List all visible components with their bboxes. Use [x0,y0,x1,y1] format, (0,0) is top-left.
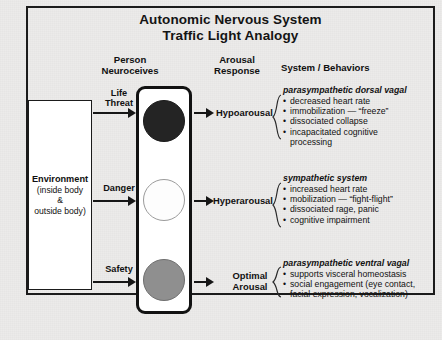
system-list-sympathetic: increased heart rate mobilization — “fig… [283,184,435,225]
environment-sub-2: & [32,195,88,206]
list-item: increased heart rate [283,184,435,194]
input-arrow-safety-line [93,281,129,283]
column-header-arousal: Arousal Response [196,54,278,76]
environment-text: Environment (inside body & outside body) [32,174,88,216]
page-title: Autonomic Nervous System Traffic Light A… [26,12,435,43]
column-header-person: Person Neuroceives [84,54,176,76]
input-arrow-life-threat-line [93,112,129,114]
output-arrow-optimal-head [206,277,214,287]
output-arrow-hypo-head [206,108,214,118]
brace-hypoarousal [272,94,282,140]
system-title-sympathetic: sympathetic system [283,173,435,183]
input-arrow-safety-head [128,277,136,287]
brace-hyperarousal [272,182,282,228]
column-header-person-line1: Person [84,54,176,65]
column-header-person-line2: Neuroceives [84,65,176,76]
list-item: dissociated rage, panic [283,204,435,214]
environment-sub-3: outside body) [32,206,88,217]
system-block-dorsal-vagal: parasympathetic dorsal vagal decreased h… [283,85,435,147]
brace-optimal-arousal [272,266,282,298]
system-list-dorsal-vagal: decreased heart rate immobilization — “f… [283,96,435,147]
input-arrow-danger-head [128,196,136,206]
column-header-system: System / Behaviors [281,62,431,73]
red-lamp [143,100,185,142]
column-header-arousal-line1: Arousal [196,54,278,65]
list-item: immobilization — “freeze” [283,106,435,116]
system-block-sympathetic: sympathetic system increased heart rate … [283,173,435,225]
green-lamp [143,259,185,301]
system-block-ventral-vagal: parasympathetic ventral vagal supports v… [283,258,435,300]
list-item: dissociated collapse [283,116,435,126]
column-header-arousal-line2: Response [196,65,278,76]
list-item: decreased heart rate [283,96,435,106]
list-item: mobilization — “fight-flight” [283,194,435,204]
list-item: cognitive impairment [283,215,435,225]
title-line-2: Traffic Light Analogy [26,28,435,44]
diagram-page: Autonomic Nervous System Traffic Light A… [0,0,442,340]
system-title-ventral-vagal: parasympathetic ventral vagal [283,258,435,268]
arousal-label-hypoarousal-line1: Hypoarousal [216,108,273,119]
arousal-label-hypoarousal: Hypoarousal [216,108,273,119]
system-list-ventral-vagal: supports visceral homeostasis social eng… [283,269,435,300]
arousal-label-hyperarousal-line1: Hyperarousal [213,196,273,207]
environment-title: Environment [32,174,88,185]
input-arrow-life-threat-head [128,108,136,118]
arousal-label-hyperarousal: Hyperarousal [213,196,273,207]
traffic-light-housing [136,86,192,314]
arousal-label-optimal-arousal: Optimal Arousal [222,271,278,292]
system-title-dorsal-vagal: parasympathetic dorsal vagal [283,85,435,95]
environment-box: Environment (inside body & outside body) [28,100,92,290]
list-item: incapacitated cognitive processing [283,127,435,147]
title-line-1: Autonomic Nervous System [26,12,435,28]
arousal-label-optimal-line2: Arousal [222,282,278,293]
list-item: supports visceral homeostasis [283,269,435,279]
arousal-label-optimal-line1: Optimal [222,271,278,282]
list-item: social engagement (eye contact, facial e… [283,279,435,299]
environment-sub-1: (inside body [32,185,88,196]
input-arrow-danger-line [93,200,129,202]
amber-lamp [143,179,185,221]
